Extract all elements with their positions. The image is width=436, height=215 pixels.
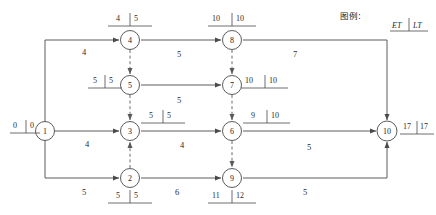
node-5-lt: 5 <box>109 77 113 85</box>
node-10-lt: 17 <box>420 123 428 131</box>
node-3-et: 5 <box>149 112 153 120</box>
legend-et-label: ET <box>392 21 401 30</box>
diagram-svg: 1 2 3 4 5 6 7 8 9 10 <box>0 0 436 215</box>
node-10-et: 17 <box>403 123 411 131</box>
edge-weight-1-3: 4 <box>85 140 89 149</box>
node-2-et: 5 <box>116 192 120 200</box>
legend-lt-label: LT <box>413 21 422 30</box>
edge-weight-6-10: 5 <box>307 143 311 152</box>
node-6-et: 9 <box>251 112 255 120</box>
node-2-lt: 5 <box>134 192 138 200</box>
node-label-2: 2 <box>128 174 132 183</box>
node-7-lt: 10 <box>269 77 277 85</box>
node-label-6: 6 <box>230 127 234 136</box>
node-8-et: 10 <box>212 15 220 23</box>
node-8-lt: 10 <box>236 15 244 23</box>
network-diagram-canvas: 1 2 3 4 5 6 7 8 9 10 4 4 5 5 5 4 6 7 5 5… <box>0 0 436 215</box>
node-1-et: 0 <box>13 122 17 130</box>
node-label-9: 9 <box>230 174 234 183</box>
edge-weight-1-4: 4 <box>82 48 86 57</box>
node-6-lt: 10 <box>271 112 279 120</box>
node-9-lt: 12 <box>236 192 244 200</box>
node-3-lt: 5 <box>167 112 171 120</box>
node-1-lt: 0 <box>30 122 34 130</box>
node-4-lt: 5 <box>134 15 138 23</box>
node-5-et: 5 <box>93 77 97 85</box>
node-label-3: 3 <box>128 127 132 136</box>
legend-title: 图例: <box>340 9 361 21</box>
edge-weight-9-10: 5 <box>303 188 307 197</box>
node-label-5: 5 <box>128 81 132 90</box>
edge-weight-1-2: 5 <box>82 188 86 197</box>
edge-9-10 <box>243 142 387 178</box>
node-label-7: 7 <box>230 81 234 90</box>
edge-weight-8-10: 7 <box>293 50 297 59</box>
edge-weight-2-9: 6 <box>175 188 179 197</box>
edge-weight-5-7: 5 <box>177 96 181 105</box>
node-label-4: 4 <box>128 36 132 45</box>
node-label-10: 10 <box>383 127 391 136</box>
node-7-et: 10 <box>245 77 253 85</box>
node-label-1: 1 <box>43 127 47 136</box>
edge-weight-4-8: 5 <box>177 50 181 59</box>
node-9-et: 11 <box>212 192 220 200</box>
node-label-8: 8 <box>230 36 234 45</box>
edge-weight-3-6: 4 <box>180 141 184 150</box>
node-4-et: 4 <box>116 15 120 23</box>
